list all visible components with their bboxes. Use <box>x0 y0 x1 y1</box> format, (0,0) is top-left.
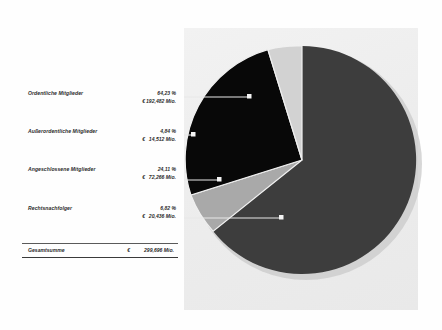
currency-symbol: € <box>142 213 145 219</box>
pie-chart-svg <box>184 18 434 318</box>
legend-label: Rechtsnachfolger <box>28 205 72 211</box>
currency-symbol: € <box>142 174 145 180</box>
total-rule-bottom <box>22 257 178 258</box>
legend-amount: 14,512 Mio. <box>149 136 176 142</box>
currency-symbol: € <box>142 98 145 104</box>
legend-percent: 64,23 % <box>157 90 176 96</box>
currency-symbol: € <box>127 247 130 253</box>
leader-marker-ausserordentliche-mitglieder <box>191 132 196 137</box>
total-amount: 299,696 Mio. <box>144 247 174 253</box>
legend-amount: 20,436 Mio. <box>149 213 176 219</box>
legend-amount: 72,266 Mio. <box>149 174 176 180</box>
leader-marker-ordentliche-mitglieder <box>247 94 252 99</box>
chart-page: Ordentliche Mitglieder 64,23 % € 192,482… <box>0 0 442 330</box>
leader-marker-rechtsnachfolger <box>279 215 284 220</box>
legend-label: Außerordentliche Mitglieder <box>28 128 97 134</box>
chart-legend: Ordentliche Mitglieder 64,23 % € 192,482… <box>0 0 184 330</box>
legend-percent: 6,82 % <box>160 205 176 211</box>
legend-amount: 192,482 Mio. <box>146 98 176 104</box>
total-row: Gesamtsumme € 299,696 Mio. <box>22 243 178 258</box>
currency-symbol: € <box>142 136 145 142</box>
legend-percent: 24,11 % <box>158 166 176 172</box>
leader-marker-angeschlossene-mitglieder <box>217 177 222 182</box>
legend-label: Ordentliche Mitglieder <box>28 90 83 96</box>
total-label: Gesamtsumme <box>28 247 65 253</box>
legend-percent: 4,84 % <box>160 128 176 134</box>
legend-label: Angeschlossene Mitglieder <box>28 166 95 172</box>
pie-chart <box>184 18 434 318</box>
